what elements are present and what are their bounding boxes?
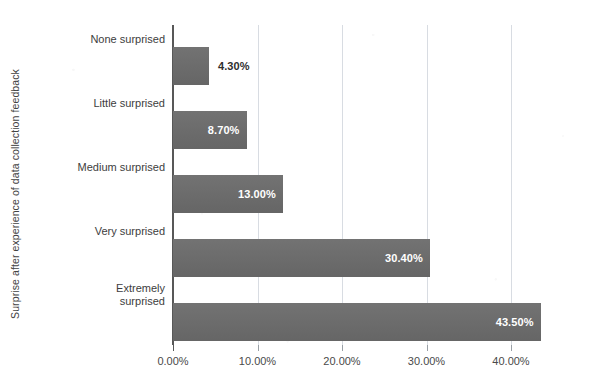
- x-tick-label: 30.00%: [408, 355, 445, 367]
- tick-mark-0: [173, 345, 174, 351]
- category-label: Little surprised: [15, 97, 165, 110]
- category-label: Very surprised: [15, 225, 165, 238]
- tick-mark-20: [342, 345, 343, 351]
- tick-mark-40: [511, 345, 512, 351]
- bar-value-label: 4.30%: [218, 60, 250, 72]
- bar-value-label: 30.40%: [385, 252, 430, 264]
- x-tick-label: 40.00%: [492, 355, 529, 367]
- bar-row: 30.40%: [173, 239, 553, 277]
- bar-row: 8.70%: [173, 111, 553, 149]
- bar-row: 4.30%: [173, 47, 553, 85]
- tick-mark-30: [427, 345, 428, 351]
- bar-value-label: 8.70%: [208, 124, 247, 136]
- bar-chart: Surprise after experience of data collec…: [0, 0, 612, 388]
- category-label: Medium surprised: [15, 161, 165, 174]
- bar-value-label: 13.00%: [238, 188, 283, 200]
- category-label-layer: None surprised Little surprised Medium s…: [0, 25, 173, 345]
- tick-mark-10: [258, 345, 259, 351]
- bar-very-surprised[interactable]: 30.40%: [173, 239, 430, 277]
- bar-little-surprised[interactable]: 8.70%: [173, 111, 247, 149]
- x-tick-label: 10.00%: [239, 355, 276, 367]
- plot-area: 0.00% 10.00% 20.00% 30.00% 40.00% 4.30% …: [173, 25, 553, 345]
- x-tick-label: 20.00%: [323, 355, 360, 367]
- bar-none-surprised[interactable]: [173, 47, 209, 85]
- x-tick-label: 0.00%: [157, 355, 188, 367]
- bar-row: 43.50%: [173, 303, 553, 341]
- bar-medium-surprised[interactable]: 13.00%: [173, 175, 283, 213]
- bar-value-label: 43.50%: [496, 316, 541, 328]
- bar-extremely-surprised[interactable]: 43.50%: [173, 303, 541, 341]
- bar-row: 13.00%: [173, 175, 553, 213]
- category-label: None surprised: [15, 33, 165, 46]
- category-label: Extremely surprised: [15, 282, 165, 308]
